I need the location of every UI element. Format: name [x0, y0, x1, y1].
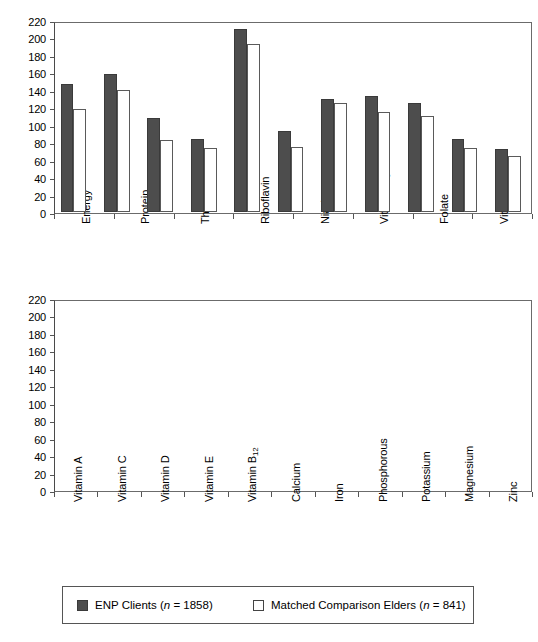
- y-axis-tick-label: 80: [0, 139, 46, 150]
- x-axis-tick-mark: [184, 492, 185, 497]
- x-axis-tick-mark: [141, 492, 142, 497]
- y-axis-tick-mark: [50, 162, 54, 163]
- x-axis-tick-mark: [489, 492, 490, 497]
- chart-legend: ENP Clients (n = 1858)Matched Comparison…: [62, 586, 474, 624]
- x-axis-tick-mark: [174, 214, 175, 219]
- x-axis-tick-mark: [358, 492, 359, 497]
- y-axis-tick-mark: [50, 22, 54, 23]
- x-axis-tick-mark: [445, 492, 446, 497]
- y-axis-tick-mark: [50, 127, 54, 128]
- x-axis-label-calcium: Calcium: [290, 463, 302, 502]
- bar-enp-vitamin-c: [104, 74, 117, 212]
- x-axis-tick-mark: [54, 214, 55, 219]
- x-axis-label-phosphorous: Phosphorous: [377, 438, 389, 502]
- x-axis-tick-mark: [472, 214, 473, 219]
- y-axis-tick-label: 120: [0, 104, 46, 115]
- y-axis-tick-mark: [50, 335, 54, 336]
- y-axis-tick-mark: [50, 144, 54, 145]
- legend-entry-enp-clients: ENP Clients (n = 1858): [77, 599, 213, 611]
- y-axis-tick-label: 220: [0, 17, 46, 28]
- y-axis-tick-mark: [50, 317, 54, 318]
- y-axis-tick-mark: [50, 109, 54, 110]
- legend-swatch-dark: [77, 600, 88, 611]
- y-axis-tick-mark: [50, 475, 54, 476]
- y-axis-tick-mark: [50, 57, 54, 58]
- y-axis-tick-mark: [50, 457, 54, 458]
- y-axis-tick-label: 180: [0, 329, 46, 340]
- bar-enp-vitamin-b12: [234, 29, 247, 212]
- y-axis-tick-label: 100: [0, 121, 46, 132]
- y-axis-tick-label: 80: [0, 417, 46, 428]
- x-axis-tick-mark: [293, 214, 294, 219]
- x-axis-label-vitamin-e: Vitamin E: [203, 456, 215, 502]
- y-axis-tick-mark: [50, 422, 54, 423]
- x-axis-tick-mark: [271, 492, 272, 497]
- x-axis-label-magnesium: Magnesium: [463, 446, 475, 502]
- y-axis-tick-label: 60: [0, 434, 46, 445]
- x-axis-tick-mark: [97, 492, 98, 497]
- bar-mce-magnesium: [464, 148, 477, 212]
- x-axis-tick-mark: [54, 492, 55, 497]
- bar-mce-vitamin-c: [117, 90, 130, 212]
- bar-mce-potassium: [421, 116, 434, 212]
- y-axis-tick-mark: [50, 74, 54, 75]
- x-axis-tick-mark: [402, 492, 403, 497]
- y-axis-tick-label: 100: [0, 399, 46, 410]
- bar-enp-vitamin-e: [191, 139, 204, 212]
- y-axis-tick-label: 160: [0, 69, 46, 80]
- x-axis-tick-mark: [413, 214, 414, 219]
- y-axis-tick-label: 20: [0, 469, 46, 480]
- y-axis-tick-mark: [50, 300, 54, 301]
- y-axis-tick-label: 220: [0, 295, 46, 306]
- y-axis-tick-mark: [50, 370, 54, 371]
- x-axis-tick-mark: [114, 214, 115, 219]
- y-axis-tick-mark: [50, 39, 54, 40]
- x-axis-tick-mark: [228, 492, 229, 497]
- bar-enp-iron: [321, 99, 334, 212]
- y-axis-tick-mark: [50, 197, 54, 198]
- x-axis-tick-mark: [233, 214, 234, 219]
- bar-enp-vitamin-d: [147, 118, 160, 212]
- y-axis-tick-mark: [50, 405, 54, 406]
- bar-mce-calcium: [291, 147, 304, 212]
- y-axis-tick-mark: [50, 387, 54, 388]
- legend-label: Matched Comparison Elders (n = 841): [271, 599, 466, 611]
- x-axis-label-riboflavin: Riboflavin: [259, 177, 271, 224]
- bar-enp-vitamin-a: [61, 84, 74, 212]
- y-axis-tick-mark: [50, 440, 54, 441]
- bar-enp-phosphorous: [365, 96, 378, 212]
- y-axis-tick-label: 180: [0, 51, 46, 62]
- bar-enp-potassium: [408, 103, 421, 212]
- bar-mce-vitamin-e: [204, 148, 217, 212]
- y-axis-tick-label: 60: [0, 156, 46, 167]
- y-axis-tick-label: 0: [0, 487, 46, 498]
- y-axis-tick-label: 200: [0, 312, 46, 323]
- bar-enp-zinc: [495, 149, 508, 212]
- legend-entry-matched-comparison-elders: Matched Comparison Elders (n = 841): [253, 599, 466, 611]
- y-axis-tick-mark: [50, 92, 54, 93]
- bar-mce-vitamin-a: [73, 109, 86, 212]
- bar-mce-phosphorous: [378, 112, 391, 212]
- x-axis-tick-mark: [532, 492, 533, 497]
- bar-mce-zinc: [508, 156, 521, 212]
- x-axis-label-vitamin-c: Vitamin C: [116, 455, 128, 502]
- x-axis-label-vitamin-b12: Vitamin B12: [246, 447, 260, 502]
- x-axis-label-zinc: Zinc: [507, 482, 519, 502]
- y-axis-tick-mark: [50, 352, 54, 353]
- bar-mce-vitamin-b12: [247, 44, 260, 212]
- bar-enp-magnesium: [452, 139, 465, 212]
- legend-swatch-light: [253, 600, 264, 611]
- y-axis-tick-label: 140: [0, 86, 46, 97]
- y-axis-tick-label: 200: [0, 34, 46, 45]
- x-axis-label-potassium: Potassium: [420, 452, 432, 502]
- x-axis-tick-mark: [315, 492, 316, 497]
- y-axis-tick-label: 160: [0, 347, 46, 358]
- chart-page: 020406080100120140160180200220EnergyProt…: [0, 0, 538, 642]
- x-axis-label-vitamin-a: Vitamin A: [72, 457, 84, 502]
- bar-mce-vitamin-d: [160, 140, 173, 212]
- chart-panel-bottom: 020406080100120140160180200220Vitamin AV…: [0, 288, 538, 568]
- bar-enp-calcium: [278, 131, 291, 212]
- x-axis-tick-mark: [532, 214, 533, 219]
- x-axis-label-iron: Iron: [333, 483, 345, 502]
- y-axis-tick-mark: [50, 179, 54, 180]
